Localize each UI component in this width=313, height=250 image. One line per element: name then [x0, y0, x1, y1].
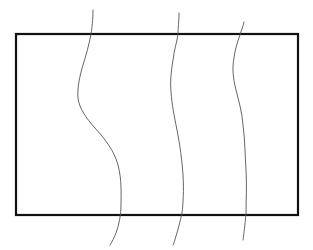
background [0, 0, 313, 250]
diagram-canvas [0, 0, 313, 250]
